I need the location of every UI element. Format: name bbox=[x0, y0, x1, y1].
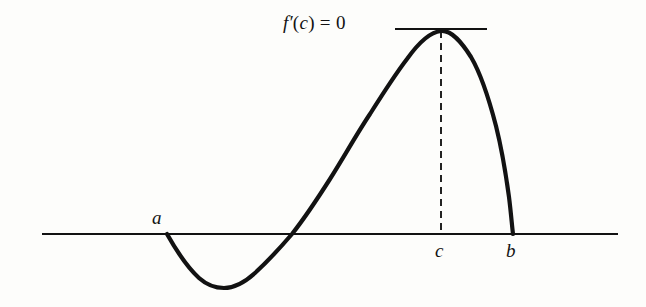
tangent-label-equals-zero: = 0 bbox=[315, 12, 346, 33]
axis-label-c: c bbox=[435, 241, 443, 260]
function-curve bbox=[167, 31, 513, 288]
axis-label-a: a bbox=[152, 208, 162, 227]
tangent-equation-label: f′(c) = 0 bbox=[283, 13, 346, 32]
axis-label-b: b bbox=[506, 241, 516, 260]
tangent-label-close-paren: ) bbox=[308, 12, 315, 33]
curve-diagram bbox=[0, 0, 646, 307]
figure-canvas: f′(c) = 0 a c b bbox=[0, 0, 646, 307]
tangent-label-c: c bbox=[299, 12, 308, 33]
